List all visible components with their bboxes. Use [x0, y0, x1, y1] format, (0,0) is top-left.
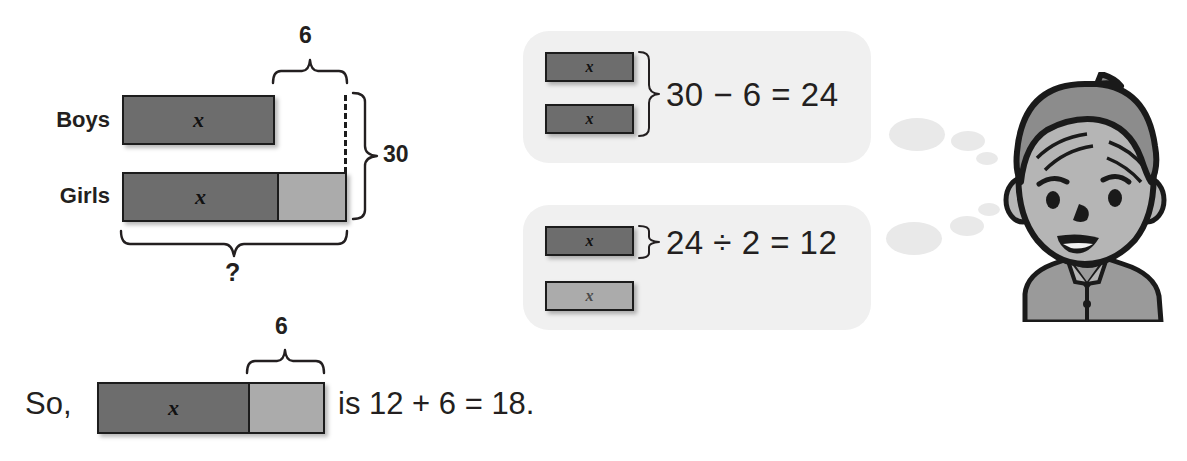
panel1-bar-2-segment: x: [547, 106, 632, 132]
thought-dot-large-lower: [886, 222, 942, 255]
row-label-boys: Boys: [10, 107, 110, 133]
boys-bar: x: [122, 95, 275, 145]
brace-right-label: 30: [383, 141, 409, 168]
boys-bar-variable: x: [193, 107, 204, 133]
worksheet-page: Boys Girls x x 6 30: [0, 0, 1187, 461]
brace-conclusion-label: 6: [275, 313, 288, 340]
girls-bar-variable: x: [195, 184, 206, 210]
boy-thinking-illustration: [995, 72, 1187, 322]
brace-top-6: [272, 58, 348, 84]
boys-bar-segment-x: x: [124, 97, 273, 143]
brace-top-label: 6: [299, 22, 312, 49]
panel2-bar-2: x: [545, 281, 634, 311]
brace-bottom-question: [120, 230, 348, 258]
girls-bar-segment-x: x: [124, 174, 277, 220]
conclusion-bar-segment-x: x: [99, 384, 248, 432]
panel1-bar-2: x: [545, 104, 634, 134]
thought-dot-medium-lower: [950, 216, 984, 236]
panel2-bar-2-variable: x: [586, 287, 594, 305]
thought-dot-medium-upper: [951, 131, 985, 151]
brace-conclusion-6: [246, 348, 325, 374]
brace-panel-2: [638, 225, 660, 259]
panel2-equation: 24 ÷ 2 = 12: [666, 224, 837, 262]
conclusion-bar: x: [97, 382, 325, 434]
conclusion-lead-text: So,: [25, 386, 72, 422]
girls-bar: x: [122, 172, 347, 222]
boy-eye-right: [1108, 189, 1122, 207]
panel1-equation: 30 − 6 = 24: [666, 76, 838, 114]
brace-panel-1: [638, 51, 660, 137]
panel2-bar-2-segment: x: [547, 283, 632, 309]
brace-bottom-label: ?: [225, 258, 240, 287]
dashed-alignment-line: [344, 95, 347, 173]
panel1-bar-1-variable: x: [586, 58, 594, 76]
conclusion-bar-segment-extra: [248, 384, 323, 432]
panel1-bar-1: x: [545, 52, 634, 82]
thought-dot-large-upper: [889, 118, 945, 151]
brace-right-30: [352, 92, 378, 220]
conclusion-bar-variable: x: [168, 395, 179, 421]
panel1-bar-1-segment: x: [547, 54, 632, 80]
girls-bar-segment-extra: [277, 174, 345, 220]
panel2-bar-1-segment: x: [547, 228, 632, 254]
row-label-girls: Girls: [10, 183, 110, 209]
panel2-bar-1-variable: x: [586, 232, 594, 250]
conclusion-trailing-text: is 12 + 6 = 18.: [338, 386, 534, 422]
boy-eye-left: [1046, 191, 1060, 209]
panel1-bar-2-variable: x: [586, 110, 594, 128]
panel2-bar-1: x: [545, 226, 634, 256]
